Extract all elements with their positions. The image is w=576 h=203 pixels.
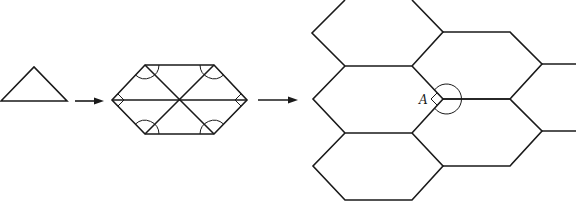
triangle-shape <box>1 67 67 101</box>
vertex-label-a: A <box>418 93 428 107</box>
hexagon-tiling <box>312 0 576 200</box>
arrow-1-icon <box>75 98 104 105</box>
tessellation-diagram: A <box>0 0 576 203</box>
arrow-2-icon <box>258 97 298 104</box>
hexagon-of-triangles <box>112 65 247 134</box>
